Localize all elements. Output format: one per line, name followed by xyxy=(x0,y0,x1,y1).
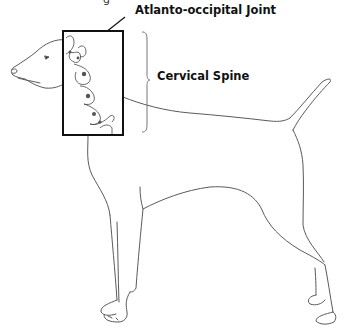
dog-eye xyxy=(45,56,49,59)
dog-belly xyxy=(143,187,325,265)
dog-illustration xyxy=(0,0,349,328)
dog-front-leg-far xyxy=(130,187,143,292)
dog-front-leg-near-front xyxy=(110,215,117,300)
dog-rear-leg-far xyxy=(315,268,316,295)
dog-head-outline xyxy=(11,40,66,89)
cervical-spine-label: Cervical Spine xyxy=(157,71,249,83)
cervical-spine-bracket xyxy=(142,32,150,132)
atlanto-occipital-joint-label: Atlanto-occipital Joint xyxy=(135,5,276,17)
dog-rear-paw-near xyxy=(316,312,336,324)
dog-anatomy-diagram: g xyxy=(0,0,349,328)
dog-thigh-rear xyxy=(293,130,324,262)
dog-chest-front xyxy=(88,136,110,215)
dog-tail xyxy=(290,79,331,130)
dog-nose xyxy=(12,69,17,73)
dog-front-leg-near-back xyxy=(117,222,119,302)
dog-rear-leg-near xyxy=(325,265,333,312)
dog-front-paw-near xyxy=(101,300,117,315)
dog-mouth xyxy=(18,78,40,83)
dog-paw-toes xyxy=(108,316,118,320)
cervical-vertebrae-inset xyxy=(63,31,123,135)
dog-back-line xyxy=(123,97,290,121)
dog-rear-paw-far xyxy=(308,295,325,305)
